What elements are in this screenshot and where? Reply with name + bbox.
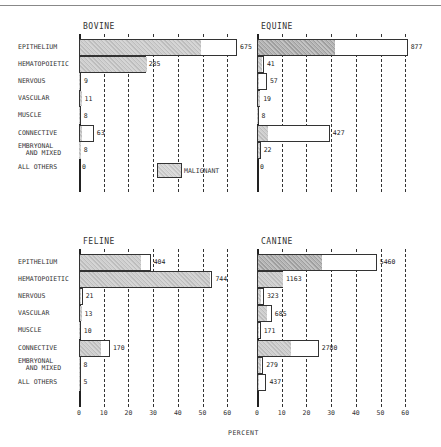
bar-connective bbox=[257, 125, 330, 142]
bar-muscle bbox=[257, 107, 259, 124]
bar-value-label: 279 bbox=[266, 361, 278, 369]
bar-value-label: 9 bbox=[84, 77, 88, 85]
gridline bbox=[356, 34, 357, 192]
category-label: NERVOUS bbox=[18, 78, 45, 85]
bar-malignant-segment bbox=[257, 107, 258, 124]
category-label: VASCULAR bbox=[18, 95, 49, 102]
bar-malignant-segment bbox=[79, 374, 80, 391]
bar-value-label: 744 bbox=[215, 275, 227, 283]
bar-value-label: 170 bbox=[113, 344, 125, 352]
x-tick-label: 0 bbox=[77, 409, 81, 417]
category-label: EPITHELIUM bbox=[18, 259, 57, 266]
x-tick-label: 20 bbox=[124, 409, 132, 417]
bar-all-others bbox=[79, 374, 81, 391]
bar-muscle bbox=[79, 322, 81, 339]
bar-value-label: 285 bbox=[149, 60, 161, 68]
bar-value-label: 8 bbox=[262, 112, 266, 120]
x-tick-label: 50 bbox=[199, 409, 207, 417]
gridline bbox=[306, 34, 307, 192]
category-label: EPITHELIUM bbox=[18, 44, 57, 51]
bar-malignant-segment bbox=[79, 322, 80, 339]
bar-value-label: 0 bbox=[82, 163, 86, 171]
bar-malignant-segment bbox=[80, 341, 101, 356]
bar-malignant-segment bbox=[258, 255, 322, 270]
gridline bbox=[381, 249, 382, 407]
legend-label: MALIGNANT bbox=[184, 167, 219, 175]
bar-vascular bbox=[257, 305, 272, 322]
bar-vascular bbox=[257, 90, 260, 107]
bar-malignant-segment bbox=[79, 73, 80, 90]
bar-malignant-segment bbox=[258, 323, 259, 338]
bar-malignant-segment bbox=[80, 126, 82, 141]
x-tick-label: 20 bbox=[302, 409, 310, 417]
bar-malignant-segment bbox=[80, 91, 82, 106]
bar-malignant-segment bbox=[258, 126, 268, 141]
bar-malignant-segment bbox=[80, 272, 210, 287]
bar-value-label: 404 bbox=[154, 258, 166, 266]
bar-nervous bbox=[79, 73, 81, 90]
bar-malignant-segment bbox=[80, 289, 81, 304]
bar-nervous bbox=[257, 288, 264, 305]
gridline bbox=[405, 249, 406, 407]
bar-all-others bbox=[257, 374, 266, 391]
bar-malignant-segment bbox=[80, 40, 201, 55]
bar-malignant-segment bbox=[258, 272, 283, 287]
x-tick-label: 60 bbox=[401, 409, 409, 417]
bar-malignant-segment bbox=[258, 74, 259, 89]
category-label: CONNECTIVE bbox=[18, 345, 57, 352]
bar-epithelium bbox=[79, 39, 237, 56]
bar-value-label: 8 bbox=[84, 146, 88, 154]
gridline bbox=[381, 34, 382, 192]
bar-value-label: 427 bbox=[333, 129, 345, 137]
category-label: MUSCLE bbox=[18, 112, 41, 119]
x-tick-label: 60 bbox=[223, 409, 231, 417]
bar-value-label: 63 bbox=[97, 129, 105, 137]
bar-muscle bbox=[257, 322, 261, 339]
category-label: ALL OTHERS bbox=[18, 164, 57, 171]
bar-epithelium bbox=[257, 254, 377, 271]
bar-value-label: 13 bbox=[84, 310, 92, 318]
bar-nervous bbox=[79, 288, 83, 305]
bar-hematopoietic bbox=[257, 56, 264, 73]
bar-value-label: 437 bbox=[269, 378, 281, 386]
bar-value-label: 57 bbox=[270, 77, 278, 85]
gridline bbox=[356, 249, 357, 407]
category-label: MUSCLE bbox=[18, 327, 41, 334]
legend-swatch-malignant bbox=[157, 163, 182, 178]
bar-value-label: 41 bbox=[267, 60, 275, 68]
category-label: CONNECTIVE bbox=[18, 130, 57, 137]
bar-value-label: 8 bbox=[84, 361, 88, 369]
bar-vascular bbox=[79, 305, 81, 322]
bar-value-label: 877 bbox=[411, 43, 423, 51]
x-tick-label: 30 bbox=[327, 409, 335, 417]
bar-embryonal-and-mixed bbox=[257, 142, 261, 159]
category-label: VASCULAR bbox=[18, 310, 49, 317]
bar-malignant-segment bbox=[258, 91, 260, 106]
bar-vascular bbox=[79, 90, 81, 107]
bar-malignant-segment bbox=[258, 143, 260, 158]
bar-embryonal-and-mixed bbox=[79, 357, 81, 374]
bar-value-label: 323 bbox=[267, 292, 279, 300]
gridline bbox=[405, 34, 406, 192]
bar-malignant-segment bbox=[258, 289, 261, 304]
x-axis-label: PERCENT bbox=[228, 429, 259, 437]
bar-value-label: 5460 bbox=[380, 258, 396, 266]
bar-value-label: 171 bbox=[264, 327, 276, 335]
bar-value-label: 2780 bbox=[322, 344, 338, 352]
x-tick-label: 10 bbox=[278, 409, 286, 417]
bar-connective bbox=[257, 340, 319, 357]
category-label: HEMATOPOIETIC bbox=[18, 276, 69, 283]
bar-malignant-segment bbox=[258, 341, 291, 356]
x-tick-label: 10 bbox=[100, 409, 108, 417]
x-tick-label: 50 bbox=[377, 409, 385, 417]
bar-hematopoietic bbox=[79, 56, 146, 73]
bar-malignant-segment bbox=[258, 57, 262, 72]
bar-muscle bbox=[79, 107, 81, 124]
gridline bbox=[227, 249, 228, 407]
bar-value-label: 685 bbox=[275, 310, 287, 318]
bar-embryonal-and-mixed bbox=[79, 142, 81, 159]
bar-value-label: 21 bbox=[86, 292, 94, 300]
bar-hematopoietic bbox=[257, 271, 283, 288]
panel-title: CANINE bbox=[261, 237, 293, 246]
category-label: ALL OTHERS bbox=[18, 379, 57, 386]
